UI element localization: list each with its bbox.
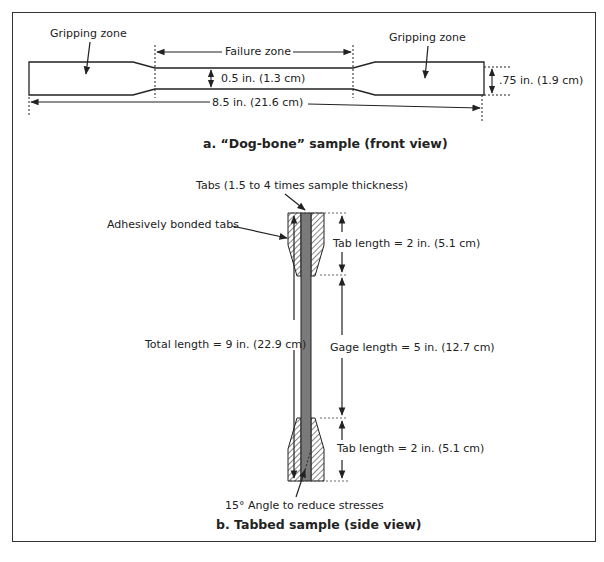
caption-a: a. “Dog-bone” sample (front view) <box>203 136 448 151</box>
gripping-zone-left-label: Gripping zone <box>50 27 127 40</box>
tab-length-top-label: Tab length = 2 in. (5.1 cm) <box>333 237 480 250</box>
top-tab-right <box>311 213 324 276</box>
narrow-width-label: 0.5 in. (1.3 cm) <box>221 72 305 85</box>
failure-zone-label: Failure zone <box>225 45 291 58</box>
gripping-zone-right-label: Gripping zone <box>389 31 466 44</box>
total-length-a-label: 8.5 in. (21.6 cm) <box>212 96 303 109</box>
total-length-arrow-right <box>308 104 480 108</box>
adhesive-tabs-label: Adhesively bonded tabs <box>107 218 239 231</box>
caption-b: b. Tabbed sample (side view) <box>216 517 421 532</box>
gage-length-label: Gage length = 5 in. (12.7 cm) <box>330 341 495 354</box>
bottom-tab-right <box>311 418 324 481</box>
gripping-zone-left-pointer <box>86 42 90 74</box>
tabs-note-pointer <box>285 194 305 210</box>
total-length-b-label: Total length = 9 in. (22.9 cm) <box>145 338 306 351</box>
wide-width-label: .75 in. (1.9 cm) <box>499 74 583 87</box>
angle-note-label: 15° Angle to reduce stresses <box>225 499 384 512</box>
tabs-note-label: Tabs (1.5 to 4 times sample thickness) <box>196 179 408 192</box>
adhesive-tabs-pointer <box>232 226 287 238</box>
tab-length-bottom-label: Tab length = 2 in. (5.1 cm) <box>337 442 484 455</box>
